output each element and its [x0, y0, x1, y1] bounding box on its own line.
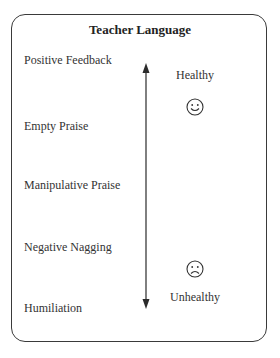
item-empty-praise: Empty Praise [24, 119, 88, 134]
diagram-title: Teacher Language [0, 22, 280, 38]
item-negative-nagging: Negative Nagging [24, 240, 112, 255]
double-arrow-icon [138, 62, 154, 310]
unhealthy-label: Unhealthy [155, 290, 235, 305]
smiley-face-icon [185, 97, 205, 117]
healthy-label: Healthy [155, 68, 235, 83]
item-humiliation: Humiliation [24, 301, 82, 316]
item-manipulative-praise: Manipulative Praise [24, 178, 120, 193]
frowning-face-icon [185, 259, 205, 279]
item-positive-feedback: Positive Feedback [24, 53, 112, 68]
